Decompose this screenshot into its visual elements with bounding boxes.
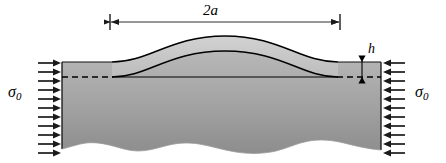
figure-canvas: [0, 0, 446, 163]
right-load-arrows: [383, 60, 405, 157]
sigma-subscript-left: 0: [16, 90, 22, 102]
dimension-arrowhead-right: [331, 19, 339, 25]
load-arrow-left-4: [38, 87, 61, 94]
load-arrow-left-9: [38, 132, 61, 139]
load-arrow-left-5: [38, 96, 61, 103]
blister-mechanics-figure: 2a h σ0 σ0: [0, 0, 446, 163]
stress-label-right: σ0: [415, 84, 428, 102]
load-arrow-right-3: [383, 78, 405, 85]
load-arrow-right-9: [383, 132, 405, 139]
load-arrow-right-2: [383, 69, 405, 76]
load-arrow-left-6: [38, 105, 61, 112]
sigma-symbol-left: σ: [8, 83, 16, 100]
substrate-body: [62, 36, 381, 153]
width-dimension-annotation: [110, 14, 340, 30]
left-load-arrows: [38, 60, 61, 157]
stress-label-left: σ0: [8, 84, 21, 102]
load-arrow-right-4: [383, 87, 405, 94]
load-arrow-left-1: [38, 60, 61, 67]
load-arrow-left-7: [38, 114, 61, 121]
dimension-arrowhead-left: [111, 19, 119, 25]
thickness-arrowhead-top: [358, 56, 365, 63]
load-arrow-left-11: [38, 150, 61, 157]
sigma-symbol-right: σ: [415, 83, 423, 100]
load-arrow-left-3: [38, 78, 61, 85]
sigma-subscript-right: 0: [423, 90, 429, 102]
load-arrow-right-1: [383, 60, 405, 67]
load-arrow-right-10: [383, 141, 405, 148]
load-arrow-right-7: [383, 114, 405, 121]
load-arrow-right-11: [383, 150, 405, 157]
load-arrow-left-8: [38, 123, 61, 130]
load-arrow-left-10: [38, 141, 61, 148]
thickness-label-h: h: [368, 42, 375, 56]
substrate-fill: [62, 36, 381, 153]
width-label-2a: 2a: [203, 3, 218, 18]
load-arrow-right-8: [383, 123, 405, 130]
load-arrow-right-5: [383, 96, 405, 103]
load-arrow-right-6: [383, 105, 405, 112]
load-arrow-left-2: [38, 69, 61, 76]
